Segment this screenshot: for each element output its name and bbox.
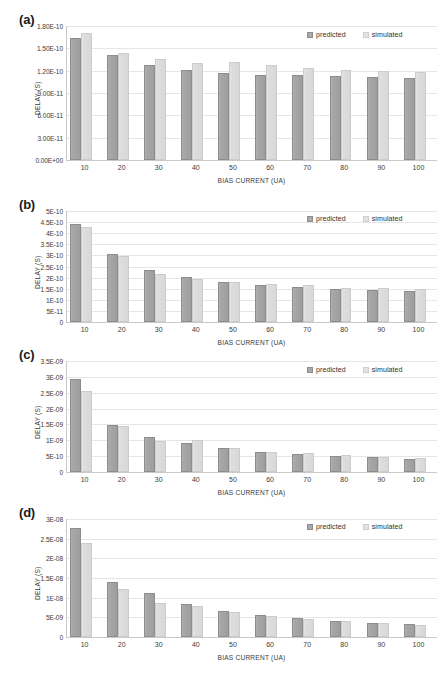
x-axis-tick: 30 xyxy=(155,326,163,333)
legend-entry-simulated[interactable]: simulated xyxy=(363,523,403,530)
y-axis-tick: 1E-10 xyxy=(19,296,63,303)
x-axis-tick: 80 xyxy=(340,164,348,171)
bar-simulated xyxy=(81,543,92,637)
x-axis-line xyxy=(66,160,437,161)
bar-predicted xyxy=(255,75,266,160)
x-axis-line xyxy=(66,322,437,323)
x-axis-tick: 40 xyxy=(192,326,200,333)
bar-predicted xyxy=(107,425,118,472)
legend-entry-simulated[interactable]: simulated xyxy=(363,215,403,222)
legend: predictedsimulated xyxy=(307,366,403,373)
bar-simulated xyxy=(303,285,314,322)
bar-predicted xyxy=(218,73,229,160)
x-axis-tick: 30 xyxy=(155,641,163,648)
x-axis-tick: 100 xyxy=(413,164,425,171)
bar-simulated xyxy=(229,612,240,637)
legend-entry-predicted[interactable]: predicted xyxy=(307,523,346,530)
panel-d: (d)DELAY (S)05E-091E-081.5E-082E-082.5E-… xyxy=(0,495,443,693)
bar-simulated xyxy=(266,284,277,322)
bar-simulated xyxy=(378,288,389,322)
y-axis-tick: 3.5E-10 xyxy=(19,241,63,248)
y-axis-tick: 3.5E-09 xyxy=(19,358,63,365)
bar-predicted xyxy=(144,593,155,637)
panel-b: (b)DELAY (S)05E-111E-101.5E-102E-102.5E-… xyxy=(0,185,443,335)
bar-simulated xyxy=(341,621,352,637)
bar-simulated xyxy=(155,603,166,637)
x-axis-tick: 80 xyxy=(340,641,348,648)
y-axis-tick: 2E-08 xyxy=(19,555,63,562)
bar-predicted xyxy=(330,621,341,637)
y-axis-title: DELAY (S) xyxy=(34,82,41,115)
bar-predicted xyxy=(70,528,81,637)
bar-predicted xyxy=(144,437,155,472)
x-axis-tick: 60 xyxy=(266,641,274,648)
y-axis-tick: 3E-10 xyxy=(19,252,63,259)
legend-label-simulated: simulated xyxy=(372,366,403,373)
x-axis-tick: 90 xyxy=(377,164,385,171)
bar-simulated xyxy=(341,455,352,472)
y-axis-title: DELAY (S) xyxy=(34,255,41,288)
bar-predicted xyxy=(181,70,192,160)
gridline xyxy=(66,233,437,234)
y-axis-tick: 5E-10 xyxy=(19,208,63,215)
legend: predictedsimulated xyxy=(307,523,403,530)
y-axis-tick: 2.5E-08 xyxy=(19,535,63,542)
y-axis-tick: 1.5E-08 xyxy=(19,575,63,582)
panel-a: (a)DELAY (S)0.00E+003.00E-116.00E-119.00… xyxy=(0,10,443,185)
bar-simulated xyxy=(341,70,352,160)
x-axis-tick: 50 xyxy=(229,164,237,171)
bar-simulated xyxy=(378,623,389,637)
bar-predicted xyxy=(330,456,341,472)
x-axis-tick: 20 xyxy=(118,326,126,333)
x-axis-tick: 40 xyxy=(192,164,200,171)
legend-swatch-predicted-icon xyxy=(307,216,313,222)
bar-simulated xyxy=(341,288,352,322)
x-axis-tick: 50 xyxy=(229,326,237,333)
x-axis-tick: 50 xyxy=(229,476,237,483)
bar-simulated xyxy=(192,440,203,472)
bar-simulated xyxy=(415,72,426,160)
y-axis-tick: 2.5E-10 xyxy=(19,263,63,270)
y-axis-tick: 1.5E-09 xyxy=(19,421,63,428)
bar-predicted xyxy=(330,76,341,160)
y-axis-tick: 1.50E-10 xyxy=(19,45,63,52)
bar-predicted xyxy=(367,77,378,160)
x-axis-tick: 10 xyxy=(81,641,89,648)
x-axis-tick: 70 xyxy=(303,164,311,171)
legend-label-simulated: simulated xyxy=(372,215,403,222)
legend-entry-predicted[interactable]: predicted xyxy=(307,215,346,222)
y-axis-tick: 3.00E-11 xyxy=(19,134,63,141)
y-axis-tick: 1E-09 xyxy=(19,437,63,444)
y-axis-line xyxy=(66,519,67,637)
legend-label-predicted: predicted xyxy=(316,31,346,38)
bar-simulated xyxy=(192,279,203,322)
bar-predicted xyxy=(367,290,378,322)
gridline xyxy=(66,244,437,245)
x-axis-title: BIAS CURRENT (UA) xyxy=(218,654,286,661)
legend-entry-simulated[interactable]: simulated xyxy=(363,366,403,373)
gridline xyxy=(66,377,437,378)
bar-predicted xyxy=(70,38,81,160)
bar-predicted xyxy=(404,291,415,322)
bar-simulated xyxy=(155,441,166,472)
legend-entry-simulated[interactable]: simulated xyxy=(363,31,403,38)
legend-entry-predicted[interactable]: predicted xyxy=(307,366,346,373)
bar-predicted xyxy=(181,604,192,637)
bar-simulated xyxy=(155,59,166,160)
x-axis-tick: 90 xyxy=(377,476,385,483)
legend: predictedsimulated xyxy=(307,215,403,222)
x-axis-line xyxy=(66,472,437,473)
y-axis-tick: 6.00E-11 xyxy=(19,112,63,119)
bar-simulated xyxy=(81,391,92,472)
bar-simulated xyxy=(118,53,129,160)
x-axis-tick: 90 xyxy=(377,326,385,333)
x-axis-tick: 30 xyxy=(155,164,163,171)
y-axis-line xyxy=(66,361,67,472)
legend-entry-predicted[interactable]: predicted xyxy=(307,31,346,38)
bar-simulated xyxy=(415,289,426,322)
x-axis-tick: 20 xyxy=(118,164,126,171)
bar-predicted xyxy=(404,624,415,637)
bar-predicted xyxy=(144,270,155,322)
bar-simulated xyxy=(378,457,389,472)
panel-c: (c)DELAY (S)05E-101E-091.5E-092E-092.5E-… xyxy=(0,335,443,495)
